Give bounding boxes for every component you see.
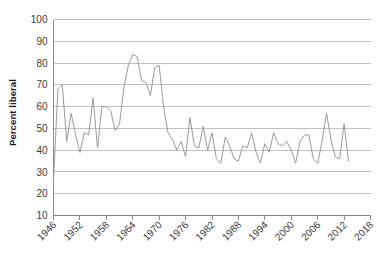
y-axis-tick-label: 70 xyxy=(36,79,48,90)
y-axis-tick-label: 60 xyxy=(36,101,48,112)
x-axis-tick-label: 1982 xyxy=(193,219,217,243)
x-axis-tick-labels: 1946195219581964197019761982198819942000… xyxy=(35,219,376,243)
y-axis-title: Percent liberal xyxy=(7,79,18,146)
x-axis-tick-label: 1946 xyxy=(35,219,59,243)
line-chart: 102030405060708090100 194619521958196419… xyxy=(0,0,386,263)
y-axis-tick-label: 90 xyxy=(36,36,48,47)
y-axis-tick-label: 30 xyxy=(36,167,48,178)
x-axis-tick-label: 2006 xyxy=(299,219,323,243)
x-axis-tick-label: 2012 xyxy=(325,219,349,243)
y-axis-tick-label: 80 xyxy=(36,58,48,69)
x-axis-tick-label: 1958 xyxy=(88,219,112,243)
y-axis-tick-labels: 102030405060708090100 xyxy=(31,14,48,221)
x-axis-tick-label: 1994 xyxy=(246,219,270,243)
y-axis-title-text: Percent liberal xyxy=(7,79,18,146)
series-line xyxy=(54,54,349,180)
y-axis-tick-label: 20 xyxy=(36,188,48,199)
chart-canvas: 102030405060708090100 194619521958196419… xyxy=(0,0,386,263)
y-axis-tick-label: 100 xyxy=(31,14,48,25)
x-axis-tick-label: 2018 xyxy=(352,219,376,243)
x-axis-tick-label: 1952 xyxy=(61,219,85,243)
y-axis-tick-label: 50 xyxy=(36,123,48,134)
x-axis-tick-label: 1964 xyxy=(114,219,138,243)
x-axis-tick-label: 1976 xyxy=(167,219,191,243)
x-axis-tick-label: 1988 xyxy=(220,219,244,243)
x-axis-tick-label: 1970 xyxy=(141,219,165,243)
x-axis-tick-label: 2000 xyxy=(273,219,297,243)
y-axis-tick-label: 40 xyxy=(36,145,48,156)
y-axis-tick-label: 10 xyxy=(36,210,48,221)
data-series xyxy=(54,54,349,180)
